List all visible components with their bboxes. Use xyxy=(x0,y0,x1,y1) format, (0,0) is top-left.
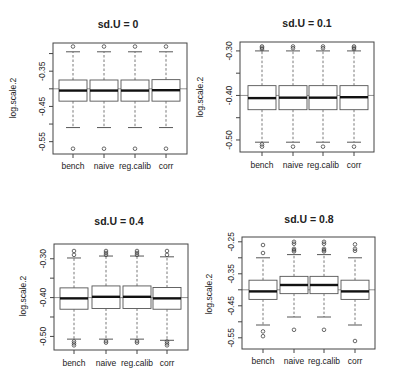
outlier-point xyxy=(165,249,169,253)
x-tick-label: naive xyxy=(96,358,117,368)
x-tick-label: bench xyxy=(251,356,274,366)
panel-title: sd.U = 0 xyxy=(98,18,139,30)
x-tick-label: naive xyxy=(284,356,305,366)
figure: sd.U = 0 log.scale.2 -0.35-0.45-0.55benc… xyxy=(0,0,397,386)
x-tick-label: reg.calib xyxy=(119,161,151,171)
y-tick-label: -0.35 xyxy=(226,264,236,284)
x-tick-label: bench xyxy=(250,160,273,170)
outlier-point xyxy=(164,45,168,49)
x-tick-label: bench xyxy=(62,358,85,368)
box-reg-calib xyxy=(309,45,337,149)
y-tick-label: -0.45 xyxy=(226,296,236,316)
box-iqr xyxy=(341,280,369,299)
x-tick-label: reg.calib xyxy=(307,160,339,170)
box-corr xyxy=(153,249,181,347)
outlier-point xyxy=(72,253,76,257)
box-bench xyxy=(60,249,88,347)
box-reg-calib xyxy=(123,249,151,344)
y-tick-label: -0.40 xyxy=(224,85,234,105)
panel-sd-u-0: sd.U = 0 log.scale.2 -0.35-0.45-0.55benc… xyxy=(8,18,187,171)
box-reg-calib xyxy=(121,45,149,151)
outlier-point xyxy=(353,339,357,343)
outlier-point xyxy=(352,145,356,149)
y-tick-label: -0.30 xyxy=(38,249,48,269)
y-tick-label: -0.55 xyxy=(226,328,236,348)
y-tick-label: -0.35 xyxy=(37,61,47,81)
outlier-point xyxy=(71,147,75,151)
y-tick-label: -0.50 xyxy=(224,130,234,150)
x-tick-label: corr xyxy=(347,160,362,170)
y-tick-label: -0.25 xyxy=(226,232,236,252)
x-tick-label: reg.calib xyxy=(121,358,153,368)
y-tick-label: -0.40 xyxy=(38,288,48,308)
box-corr xyxy=(152,45,180,151)
panel-title: sd.U = 0.1 xyxy=(282,17,331,29)
y-axis-label: log.scale.2 xyxy=(8,77,18,118)
box-bench xyxy=(248,45,276,149)
panel-sd-u-0-1: sd.U = 0.1 log.scale.2 -0.30-0.40-0.50be… xyxy=(195,17,374,170)
box-iqr xyxy=(249,280,277,299)
y-tick-label: -0.55 xyxy=(37,132,47,152)
y-axis-label: log.scale.2 xyxy=(18,275,28,316)
y-axis-label: log.scale.2 xyxy=(195,76,205,117)
outlier-point xyxy=(165,253,169,257)
outlier-point xyxy=(260,145,264,149)
x-tick-label: reg.calib xyxy=(308,356,340,366)
box-naive xyxy=(280,240,308,332)
box-corr xyxy=(340,45,368,149)
box-bench xyxy=(249,243,277,338)
outlier-point xyxy=(261,251,265,255)
outlier-point xyxy=(261,334,265,338)
box-reg-calib xyxy=(310,240,338,332)
panel-sd-u-0-8: sd.U = 0.8 log.scale.2 -0.25-0.35-0.45-0… xyxy=(204,213,375,366)
outlier-point xyxy=(164,147,168,151)
outlier-point xyxy=(102,45,106,49)
outlier-point xyxy=(353,243,357,247)
x-tick-label: corr xyxy=(160,358,175,368)
outlier-point xyxy=(322,328,326,332)
y-tick-label: -0.30 xyxy=(224,41,234,61)
panel-sd-u-0-4: sd.U = 0.4 log.scale.2 -0.30-0.40-0.50be… xyxy=(18,215,188,368)
outlier-point xyxy=(72,249,76,253)
outlier-point xyxy=(292,328,296,332)
box-corr xyxy=(341,243,369,343)
boxplot-grid: sd.U = 0 log.scale.2 -0.35-0.45-0.55benc… xyxy=(0,0,397,386)
x-tick-label: corr xyxy=(159,161,174,171)
x-tick-label: naive xyxy=(283,160,304,170)
panel-title: sd.U = 0.4 xyxy=(94,215,143,227)
outlier-point xyxy=(291,145,295,149)
outlier-point xyxy=(261,330,265,334)
outlier-point xyxy=(133,45,137,49)
outlier-point xyxy=(71,45,75,49)
y-tick-label: -0.45 xyxy=(37,96,47,116)
box-bench xyxy=(59,45,87,151)
y-tick-label: -0.50 xyxy=(38,326,48,346)
panel-title: sd.U = 0.8 xyxy=(284,213,333,225)
outlier-point xyxy=(321,145,325,149)
y-axis-label: log.scale.2 xyxy=(204,273,214,314)
outlier-point xyxy=(261,243,265,247)
x-tick-label: naive xyxy=(94,161,115,171)
x-tick-label: bench xyxy=(61,161,84,171)
box-naive xyxy=(279,45,307,149)
x-tick-label: corr xyxy=(348,356,363,366)
outlier-point xyxy=(102,147,106,151)
outlier-point xyxy=(133,147,137,151)
box-naive xyxy=(92,249,120,344)
box-naive xyxy=(90,45,118,151)
